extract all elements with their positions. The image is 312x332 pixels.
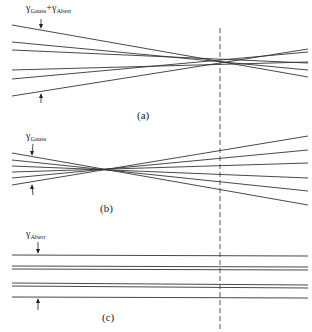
ray-line [12, 297, 308, 298]
ray-line [12, 269, 308, 270]
arrow-up-icon [30, 184, 34, 195]
panel-c-label: γAberr [25, 228, 46, 240]
panel-a: γGauss+γAberr (a) [12, 2, 308, 122]
arrow-down-icon [39, 19, 43, 29]
panel-a-label: γGauss+γAberr [25, 2, 72, 14]
ray-line [12, 255, 308, 256]
ray-line [12, 266, 308, 267]
panel-c-caption: (c) [102, 311, 115, 324]
ray-diagram: γGauss+γAberr (a) γGauss (b) γAber [0, 0, 312, 332]
panel-c-rays [12, 255, 308, 298]
panel-a-rays [12, 25, 308, 96]
arrow-down-icon [30, 144, 34, 156]
panel-b: γGauss (b) [12, 130, 308, 215]
arrow-up-icon [39, 93, 43, 103]
panel-c: γAberr (c) [12, 228, 308, 324]
ray-line [12, 286, 308, 288]
panel-a-caption: (a) [137, 109, 150, 122]
panel-b-caption: (b) [100, 202, 113, 215]
arrow-down-icon [36, 242, 40, 254]
panel-b-rays [12, 136, 308, 205]
ray-line [12, 283, 308, 285]
arrow-up-icon [36, 298, 40, 310]
panel-b-label: γGauss [25, 130, 47, 142]
